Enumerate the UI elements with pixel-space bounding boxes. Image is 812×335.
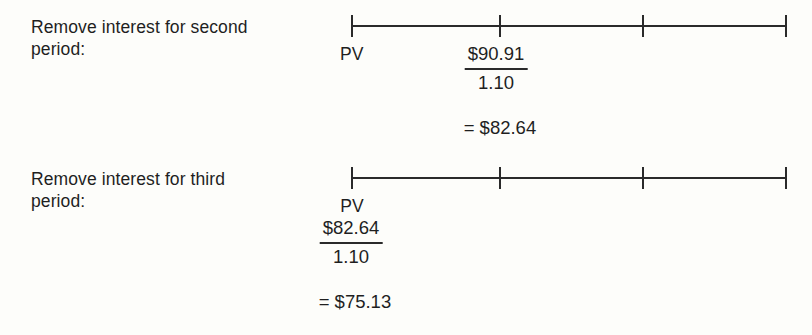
result-third-period: =$75.13	[319, 291, 391, 313]
result-second-period: =$82.64	[464, 117, 536, 139]
block-label-third-period: Remove interest for third period:	[31, 168, 321, 212]
block-label-second-period: Remove interest for second period:	[31, 16, 321, 60]
timeline-axis	[351, 177, 787, 179]
pv-label-third-period: PV	[340, 196, 363, 216]
timeline-axis	[351, 25, 787, 27]
present-value-figure: Remove interest for second period: PV $9…	[0, 0, 812, 335]
fraction-denominator: 1.10	[465, 71, 528, 95]
fraction-numerator: $90.91	[465, 42, 528, 66]
timeline-tick-1	[499, 15, 501, 37]
timeline-third-period	[351, 167, 787, 189]
result-value: $75.13	[335, 291, 392, 312]
timeline-second-period	[351, 15, 787, 37]
pv-label-second-period: PV	[340, 44, 363, 64]
fraction-numerator: $82.64	[320, 216, 383, 240]
fraction-denominator: 1.10	[320, 245, 383, 269]
fraction-third-period: $82.64 1.10	[320, 216, 383, 269]
timeline-tick-0	[351, 167, 353, 189]
timeline-tick-2	[642, 167, 644, 189]
equals-sign: =	[464, 117, 475, 138]
result-value: $82.64	[480, 117, 537, 138]
fraction-bar	[320, 242, 383, 244]
timeline-tick-2	[642, 15, 644, 37]
fraction-second-period: $90.91 1.10	[465, 42, 528, 95]
timeline-tick-3	[785, 167, 787, 189]
timeline-tick-3	[785, 15, 787, 37]
timeline-tick-0	[351, 15, 353, 37]
fraction-bar	[465, 68, 528, 70]
timeline-tick-1	[499, 167, 501, 189]
equals-sign: =	[319, 291, 330, 312]
